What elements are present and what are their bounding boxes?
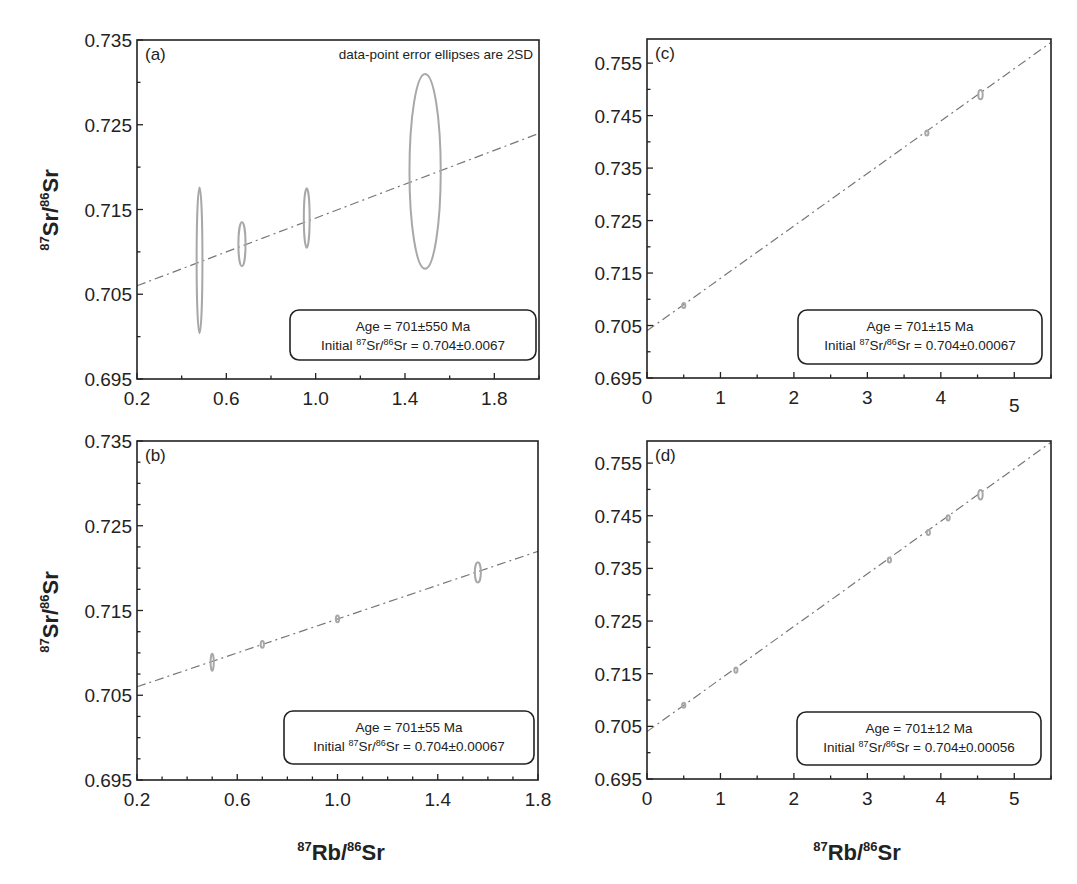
regression-line: [647, 442, 1051, 731]
svg-text:87Sr/86Sr: 87Sr/86Sr: [37, 571, 63, 653]
y-tick-label: 0.715: [594, 263, 642, 284]
x-tick-label: 1.4: [425, 789, 452, 810]
x-tick-label: 0.2: [124, 789, 150, 810]
x-tick-label: 2: [789, 387, 800, 408]
error-ellipse: [304, 188, 310, 247]
x-tick-label: 5: [1009, 788, 1020, 809]
y-tick-label: 0.695: [594, 368, 642, 389]
y-tick-label: 0.735: [84, 30, 132, 51]
ellipse-note: data-point error ellipses are 2SD: [339, 47, 534, 62]
x-tick-label: 3: [862, 387, 873, 408]
y-tick-label: 0.695: [594, 769, 642, 790]
y-tick-label: 0.705: [84, 685, 132, 706]
x-tick-label: 0: [642, 387, 653, 408]
initial-ratio-label: Initial 87Sr/86Sr = 0.704±0.00067: [313, 738, 504, 754]
error-ellipse: [197, 187, 203, 333]
y-tick-label: 0.735: [84, 431, 132, 452]
x-tick-label: 3: [862, 788, 873, 809]
regression-line: [137, 551, 538, 686]
x-axis-title-right: 87Rb/86Sr: [813, 839, 901, 865]
error-ellipse: [261, 641, 264, 648]
x-tick-label: 5: [1009, 395, 1020, 416]
error-ellipse: [475, 562, 481, 582]
y-tick-label: 0.705: [594, 316, 642, 337]
isochron-figure: 87Sr/86Sr 87Sr/86Sr 87Rb/86Sr 87Rb/86Sr …: [0, 0, 1077, 884]
age-label: Age = 701±15 Ma: [867, 319, 974, 334]
x-tick-label: 1.0: [324, 789, 350, 810]
y-tick-label: 0.715: [84, 601, 132, 622]
y-axis-title-top: 87Sr/86Sr: [37, 169, 63, 251]
error-ellipse: [682, 303, 685, 308]
x-tick-label: 0.6: [213, 388, 239, 409]
y-tick-label: 0.715: [84, 200, 132, 221]
y-tick-label: 0.695: [84, 770, 132, 791]
age-label: Age = 701±55 Ma: [356, 720, 463, 735]
y-tick-label: 0.735: [594, 158, 642, 179]
x-tick-label: 1.8: [481, 388, 507, 409]
x-axis-title-left: 87Rb/86Sr: [297, 839, 385, 865]
panel-label: (a): [145, 45, 166, 64]
y-tick-label: 0.725: [84, 516, 132, 537]
error-ellipse: [925, 130, 928, 135]
y-tick-label: 0.755: [594, 453, 642, 474]
error-ellipse: [211, 654, 214, 671]
error-ellipse: [927, 530, 930, 535]
error-ellipse: [409, 74, 440, 269]
panel-label: (d): [655, 446, 676, 465]
initial-ratio-label: Initial 87Sr/86Sr = 0.704±0.0067: [321, 337, 505, 353]
legend-box: [284, 711, 534, 764]
panel-a: 0.20.61.01.41.80.6950.7050.7150.7250.735…: [84, 30, 539, 409]
panel-c: 0123450.6950.7050.7150.7250.7350.7450.75…: [594, 39, 1051, 416]
legend-box: [797, 712, 1041, 765]
x-tick-label: 1.0: [302, 388, 328, 409]
x-tick-label: 1: [715, 788, 726, 809]
y-tick-label: 0.725: [594, 611, 642, 632]
y-tick-label: 0.725: [594, 211, 642, 232]
y-tick-label: 0.745: [594, 106, 642, 127]
panel-label: (c): [655, 44, 675, 63]
y-tick-label: 0.715: [594, 664, 642, 685]
y-tick-label: 0.755: [594, 53, 642, 74]
error-ellipse: [888, 557, 891, 562]
y-axis-title-bottom: 87Sr/86Sr: [37, 571, 63, 653]
initial-ratio-label: Initial 87Sr/86Sr = 0.704±0.00067: [824, 337, 1015, 353]
x-tick-label: 1.4: [392, 388, 419, 409]
y-tick-label: 0.705: [594, 716, 642, 737]
x-tick-label: 1: [715, 387, 726, 408]
age-label: Age = 701±550 Ma: [356, 319, 471, 334]
initial-ratio-label: Initial 87Sr/86Sr = 0.704±0.00056: [823, 739, 1014, 755]
error-ellipse: [947, 515, 950, 520]
panel-b: 0.20.61.01.41.80.6950.7050.7150.7250.735…: [84, 431, 551, 810]
x-tick-label: 0.6: [224, 789, 250, 810]
x-tick-label: 0.2: [124, 388, 150, 409]
x-tick-label: 4: [936, 387, 947, 408]
svg-text:87Sr/86Sr: 87Sr/86Sr: [37, 169, 63, 251]
x-tick-label: 2: [789, 788, 800, 809]
panel-d: 0123450.6950.7050.7150.7250.7350.7450.75…: [594, 441, 1051, 809]
x-tick-label: 4: [936, 788, 947, 809]
error-ellipse: [978, 490, 982, 499]
x-tick-label: 0: [642, 788, 653, 809]
panel-label: (b): [145, 446, 166, 465]
x-tick-label: 1.8: [525, 789, 551, 810]
y-tick-label: 0.705: [84, 284, 132, 305]
y-tick-label: 0.695: [84, 369, 132, 390]
error-ellipse: [238, 222, 245, 266]
y-tick-label: 0.725: [84, 115, 132, 136]
y-tick-label: 0.735: [594, 558, 642, 579]
age-label: Age = 701±12 Ma: [866, 721, 973, 736]
error-ellipse: [978, 90, 982, 99]
error-ellipse: [734, 667, 737, 672]
regression-line: [647, 42, 1051, 330]
y-tick-label: 0.745: [594, 506, 642, 527]
